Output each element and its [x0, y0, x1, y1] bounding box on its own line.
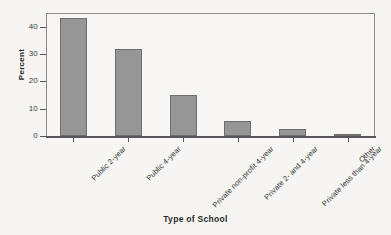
x-axis-tick-label: Private less than 4-year: [321, 145, 384, 208]
bar-chart: 010203040 Percent Public 2-yearPublic 4-…: [0, 0, 391, 235]
x-axis-line: [46, 136, 376, 138]
bar: [224, 121, 251, 136]
x-axis-tick: [128, 137, 129, 142]
y-axis-tick: [40, 27, 46, 28]
x-axis-tick: [73, 137, 74, 142]
y-axis-tick: [40, 81, 46, 82]
bar: [170, 95, 197, 136]
y-axis-tick: [40, 54, 46, 55]
bar: [60, 18, 87, 136]
y-axis-tick-label: 10: [29, 105, 38, 113]
y-axis-tick-label: 0: [33, 132, 38, 140]
y-axis-tick-label: 20: [29, 77, 38, 85]
x-axis-tick-label: Public 4-year: [145, 145, 183, 183]
y-axis-title: Percent: [17, 35, 26, 95]
y-axis-tick: [40, 136, 46, 137]
x-axis-tick: [183, 137, 184, 142]
y-axis-tick: [40, 109, 46, 110]
x-axis-tick-label: Public 2-year: [91, 145, 129, 183]
x-axis-title: Type of School: [0, 214, 391, 224]
x-axis-tick: [238, 137, 239, 142]
y-axis-tick-label: 30: [29, 50, 38, 58]
bar: [115, 49, 142, 136]
x-axis-tick: [293, 137, 294, 142]
y-axis-tick-label: 40: [29, 23, 38, 31]
x-axis-tick: [348, 137, 349, 142]
bars-layer: [46, 13, 375, 136]
bar: [279, 129, 306, 136]
